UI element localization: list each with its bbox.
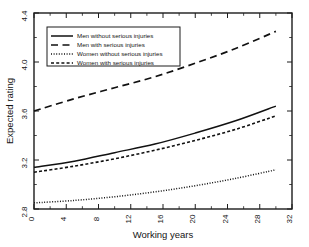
x-tick-label: 4	[59, 216, 68, 221]
y-tick-label: 2.8	[20, 206, 29, 218]
y-axis-label: Expected rating	[4, 78, 15, 144]
x-tick-label: 20	[188, 214, 197, 223]
x-tick-label: 24	[221, 214, 230, 223]
chart-figure: 048121620242832 2.83.23.64.04.4 Working …	[0, 0, 309, 247]
x-axis-label: Working years	[133, 229, 194, 240]
y-tick-label: 4.4	[20, 10, 29, 22]
x-tick-label: 32	[285, 214, 294, 223]
y-tick-label: 3.2	[20, 157, 29, 169]
x-tick-label: 28	[253, 214, 262, 223]
legend-label-0: Men without serious injuries	[77, 32, 153, 39]
x-tick-label: 8	[92, 216, 101, 221]
legend-label-3: Women with serious injuries	[77, 59, 154, 66]
legend-label-1: Men with serious injuries	[77, 41, 145, 48]
legend-label-2: Women without serious injuries	[77, 50, 163, 57]
y-tick-label: 3.6	[20, 108, 29, 120]
x-tick-label: 16	[156, 214, 165, 223]
x-tick-label: 12	[124, 214, 133, 223]
chart-legend: Men without serious injuriesMen with ser…	[47, 27, 180, 66]
expected-rating-line-chart: 048121620242832 2.83.23.64.04.4 Working …	[0, 0, 309, 247]
y-tick-label: 4.0	[20, 59, 29, 71]
